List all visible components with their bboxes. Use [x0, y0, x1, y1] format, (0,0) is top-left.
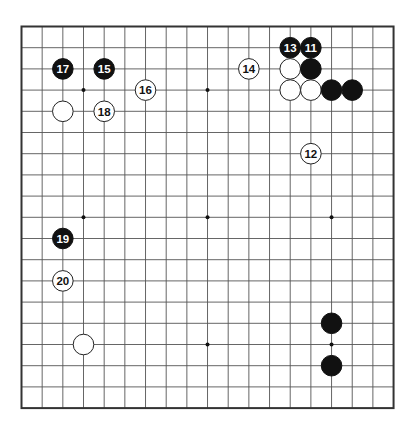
black-stone-icon	[342, 80, 363, 101]
move-number-label: 13	[284, 42, 297, 54]
star-point-icon	[330, 343, 334, 347]
star-point-icon	[330, 215, 334, 219]
white-stone[interactable]	[53, 101, 74, 122]
white-stone-icon	[280, 80, 301, 101]
black-stone-icon	[321, 313, 342, 334]
white-stone-14[interactable]: 14	[239, 59, 260, 80]
white-stone-18[interactable]: 18	[94, 101, 115, 122]
white-stone-20[interactable]: 20	[53, 271, 74, 292]
white-stone-icon	[280, 59, 301, 80]
black-stone-17[interactable]: 17	[53, 59, 74, 80]
move-number-label: 15	[98, 63, 111, 75]
white-stone-16[interactable]: 16	[135, 80, 156, 101]
black-stone-11[interactable]: 11	[301, 37, 322, 58]
black-stone[interactable]	[342, 80, 363, 101]
star-point-icon	[206, 215, 210, 219]
black-stone[interactable]	[321, 313, 342, 334]
black-stone[interactable]	[321, 80, 342, 101]
black-stone-19[interactable]: 19	[53, 228, 74, 249]
black-stone-icon	[301, 59, 322, 80]
star-point-icon	[206, 343, 210, 347]
white-stone-icon	[73, 334, 94, 355]
black-stone[interactable]	[301, 59, 322, 80]
move-number-label: 12	[304, 148, 317, 160]
move-number-label: 19	[56, 233, 69, 245]
white-stone-12[interactable]: 12	[301, 143, 322, 164]
move-number-label: 11	[305, 42, 318, 54]
black-stone-icon	[321, 355, 342, 376]
white-stone[interactable]	[301, 80, 322, 101]
white-stone-icon	[301, 80, 322, 101]
star-point-icon	[82, 88, 86, 92]
white-stone[interactable]	[280, 59, 301, 80]
white-stone[interactable]	[280, 80, 301, 101]
black-stone[interactable]	[321, 355, 342, 376]
move-number-label: 18	[98, 106, 111, 118]
white-stone-icon	[53, 101, 74, 122]
black-stone-icon	[321, 80, 342, 101]
move-number-label: 16	[139, 84, 152, 96]
star-point-icon	[82, 215, 86, 219]
black-stone-15[interactable]: 15	[94, 59, 115, 80]
black-stone-13[interactable]: 13	[280, 37, 301, 58]
white-stone[interactable]	[73, 334, 94, 355]
move-number-label: 20	[56, 275, 69, 287]
move-number-label: 14	[242, 63, 255, 75]
star-point-icon	[206, 88, 210, 92]
move-number-label: 17	[56, 63, 69, 75]
go-board[interactable]: 11121314151617181920	[0, 0, 417, 432]
